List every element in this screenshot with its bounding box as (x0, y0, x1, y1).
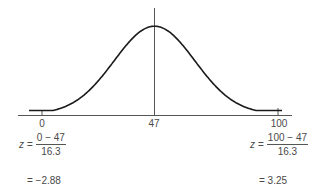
denominator: 16.3 (41, 145, 60, 157)
right-z-result: = 3.25 (259, 175, 287, 186)
fraction: 100 − 47 16.3 (267, 132, 308, 157)
equals-sign: = (27, 139, 33, 150)
bell-curve (29, 26, 282, 110)
normal-curve-plot (0, 0, 319, 194)
tick-label-47: 47 (148, 118, 159, 129)
z-variable: z (250, 139, 255, 150)
numerator: 100 − 47 (267, 132, 308, 145)
left-z-result: = −2.88 (27, 175, 61, 186)
tick-label-100: 100 (271, 118, 288, 129)
tick-label-0: 0 (39, 118, 45, 129)
equals-sign: = (258, 139, 264, 150)
denominator: 16.3 (278, 145, 297, 157)
fraction: 0 − 47 16.3 (36, 132, 66, 157)
left-z-formula: z = 0 − 47 16.3 (19, 132, 66, 157)
z-variable: z (19, 139, 24, 150)
right-z-formula: z = 100 − 47 16.3 (250, 132, 308, 157)
numerator: 0 − 47 (36, 132, 66, 145)
